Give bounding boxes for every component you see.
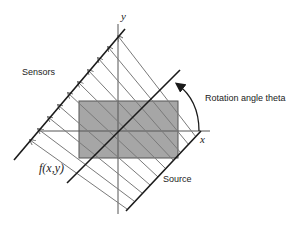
x-axis-label: x — [199, 133, 205, 145]
sensors-label: Sensors — [22, 67, 56, 77]
rotation-label: Rotation angle theta — [205, 93, 286, 103]
function-label: f(x,y) — [39, 161, 64, 175]
source-label: Source — [163, 174, 192, 184]
y-axis-label: y — [120, 10, 126, 22]
rotation-arrow-icon — [177, 84, 199, 131]
projection-diagram: Sensors Rotation angle theta Source f(x,… — [0, 0, 296, 226]
